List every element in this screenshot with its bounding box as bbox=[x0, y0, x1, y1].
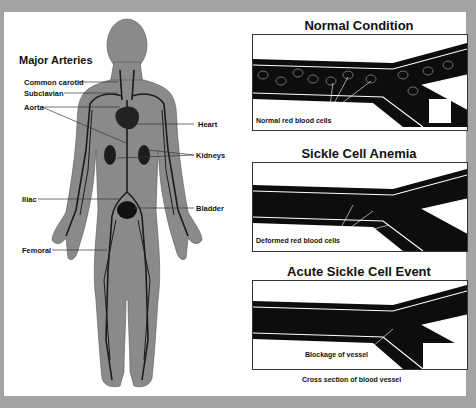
label-femoral: Femoral bbox=[22, 246, 51, 255]
sickle-vessel-panel: Deformed red blood cells bbox=[252, 162, 468, 252]
sickle-cell-anemia-title: Sickle Cell Anemia bbox=[244, 146, 474, 161]
normal-caption: Normal red blood cells bbox=[256, 117, 331, 124]
acute-sickle-cell-event-title: Acute Sickle Cell Event bbox=[244, 264, 474, 279]
cross-section-caption: Cross section of blood vessel bbox=[302, 376, 401, 383]
label-kidneys: Kidneys bbox=[196, 151, 225, 160]
label-heart: Heart bbox=[198, 120, 217, 129]
label-common-carotid: Common carotid bbox=[24, 78, 84, 87]
sickle-caption: Deformed red blood cells bbox=[256, 237, 340, 244]
label-iliac: Iliac bbox=[22, 195, 37, 204]
normal-vessel-panel: Normal red blood cells bbox=[252, 34, 468, 131]
acute-caption: Blockage of vessel bbox=[305, 351, 368, 358]
normal-condition-title: Normal Condition bbox=[244, 18, 474, 33]
label-bladder: Bladder bbox=[196, 204, 224, 213]
label-aorta: Aorta bbox=[24, 103, 44, 112]
major-arteries-title: Major Arteries bbox=[19, 54, 93, 66]
label-subclavian: Subclavian bbox=[24, 89, 64, 98]
acute-vessel-panel: Blockage of vessel bbox=[252, 280, 468, 370]
